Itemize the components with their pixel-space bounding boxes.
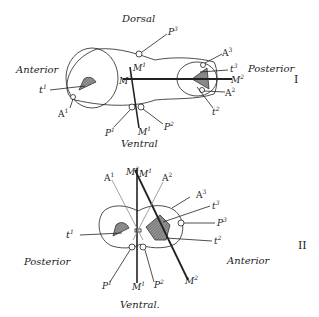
fig1-t1-region xyxy=(79,77,96,90)
fig1-p2-label: P2 xyxy=(163,120,174,132)
fig1-numeral: I xyxy=(294,73,298,86)
fig1-p1-leader xyxy=(114,110,130,127)
fig2-t3-label: t3 xyxy=(212,199,220,211)
fig2-t3-leader xyxy=(163,206,210,222)
fig1-a1-leader xyxy=(70,99,73,108)
fig2-p2-label: P2 xyxy=(153,278,164,290)
fig2-ventral-label: Ventral. xyxy=(120,299,160,310)
fig2-posterior-label: Posterior xyxy=(23,256,71,267)
fig2-a3-leader xyxy=(172,197,190,208)
fig2-m1-top-label: M1 xyxy=(138,167,152,179)
fig1-posterior-label: Posterior xyxy=(247,63,295,74)
figure-one xyxy=(50,34,232,128)
fig1-p3-node xyxy=(136,51,142,57)
fig2-p3-label: P3 xyxy=(216,216,227,228)
fig1-a3-label: A3 xyxy=(221,46,233,58)
fig1-t3-label: t3 xyxy=(230,62,238,74)
fig1-anterior-label: Anterior xyxy=(15,64,60,75)
fig2-anterior-label: Anterior xyxy=(226,255,271,266)
fig1-m1-bottom-label: M1 xyxy=(137,125,151,137)
fig1-p3-leader xyxy=(142,34,167,52)
figure-two xyxy=(80,168,215,283)
fig1-p1-label: P1 xyxy=(104,126,115,138)
fig1-t2-leader xyxy=(197,87,213,108)
fig1-t2-label: t2 xyxy=(212,105,220,117)
fig1-a3-node xyxy=(201,63,206,68)
fig1-a2-leader xyxy=(204,91,225,92)
fig2-p1-label: P1 xyxy=(101,279,112,291)
fig1-p2-leader xyxy=(143,109,163,124)
fig2-p3-node xyxy=(178,220,184,226)
fig1-m2-right-label: M2 xyxy=(230,73,244,85)
fig1-a1-node xyxy=(71,95,76,100)
fig2-m1-bottom-label: M1 xyxy=(131,280,145,292)
fig2-m2-bottom-label: M2 xyxy=(184,274,198,286)
fig1-p1-node xyxy=(129,104,135,110)
fig2-t1-region xyxy=(113,223,129,236)
fig2-numeral: II xyxy=(298,239,307,252)
fig1-dorsal-label: Dorsal xyxy=(121,13,155,24)
fig1-t1-label: t1 xyxy=(39,83,47,95)
fig2-a3-label: A3 xyxy=(195,188,207,200)
fig2-t2-label: t2 xyxy=(214,234,222,246)
fig2-p2-node xyxy=(140,244,146,250)
fig1-a1-label: A1 xyxy=(57,107,68,119)
fig1-m2-left-label: M2 xyxy=(118,74,132,86)
fig2-t2-leader xyxy=(166,238,212,241)
fig2-p2-leader xyxy=(145,250,154,282)
fig1-a2-label: A2 xyxy=(224,86,236,98)
fig2-a2-label: A2 xyxy=(161,171,173,183)
fig2-t1-label: t1 xyxy=(66,228,74,240)
figure-one-labels: Dorsal Anterior Posterior Ventral I t1 A… xyxy=(15,13,298,149)
fig2-p1-node xyxy=(129,244,135,250)
embryo-orientation-diagram: Dorsal Anterior Posterior Ventral I t1 A… xyxy=(0,0,319,317)
fig2-p1-leader xyxy=(110,250,130,282)
fig1-ventral-label: Ventral xyxy=(121,138,158,149)
fig1-m1-top-label: M1 xyxy=(132,61,146,73)
fig1-p3-label: P3 xyxy=(167,25,178,37)
